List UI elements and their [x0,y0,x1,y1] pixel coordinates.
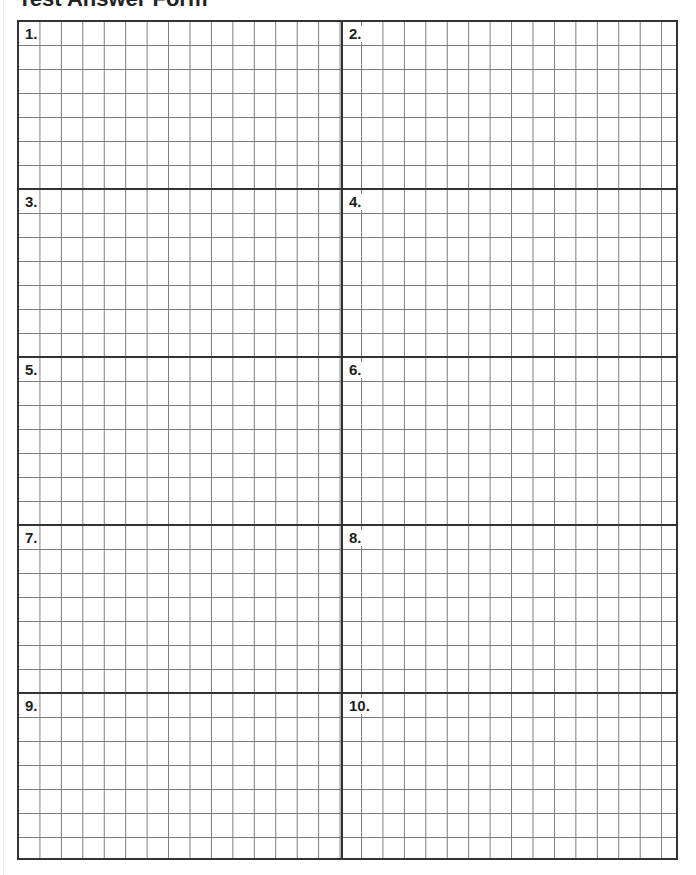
answer-box-5[interactable]: 5. [19,358,341,524]
answer-box-4[interactable]: 4. [343,190,676,356]
answer-box-10[interactable]: 10. [343,694,676,860]
answer-box-9[interactable]: 9. [19,694,341,860]
page-title: Test Answer Form [18,0,207,12]
answer-number-label: 10. [348,698,371,714]
answer-grid-sheet: 1. 2. 3. 4. 5. 6. 7. 8. 9. 10. [17,20,678,860]
answer-box-7[interactable]: 7. [19,526,341,692]
answer-number-label: 5. [24,362,39,378]
answer-number-label: 7. [24,530,39,546]
answer-box-6[interactable]: 6. [343,358,676,524]
answer-number-label: 2. [348,26,363,42]
answer-box-8[interactable]: 8. [343,526,676,692]
answer-box-2[interactable]: 2. [343,22,676,188]
answer-number-label: 9. [24,698,39,714]
answer-box-3[interactable]: 3. [19,190,341,356]
answer-number-label: 8. [348,530,363,546]
answer-box-1[interactable]: 1. [19,22,341,188]
answer-number-label: 1. [24,26,39,42]
answer-number-label: 6. [348,362,363,378]
answer-number-label: 3. [24,194,39,210]
answer-number-label: 4. [348,194,363,210]
scan-edge-artifact [3,0,4,875]
